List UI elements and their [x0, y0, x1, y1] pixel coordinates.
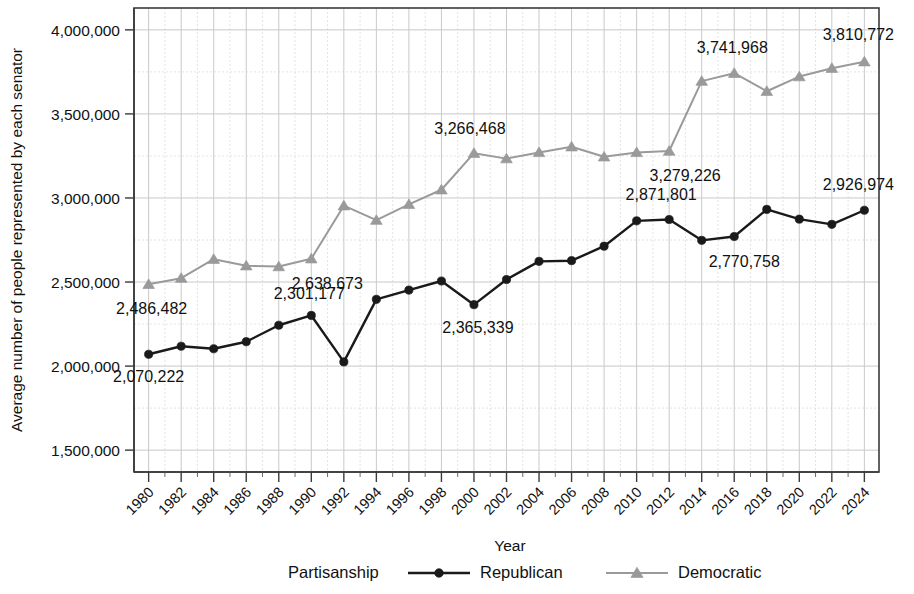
x-tick-label: 2012 — [643, 484, 677, 518]
x-tick-label: 1992 — [318, 484, 352, 518]
data-point-marker — [728, 68, 740, 78]
x-tick-label: 1996 — [383, 484, 417, 518]
data-point-marker — [566, 141, 578, 151]
x-tick-label: 1984 — [188, 484, 222, 518]
data-point-marker — [860, 206, 868, 214]
y-tick-label: 2,500,000 — [51, 274, 120, 291]
data-point-marker — [175, 273, 187, 283]
x-tick-label: 2010 — [611, 484, 645, 518]
y-axis-title: Average number of people represented by … — [8, 48, 25, 432]
data-point-marker — [633, 217, 641, 225]
data-point-marker — [372, 295, 380, 303]
y-axis-ticks: 1,500,0002,000,0002,500,0003,000,0003,50… — [51, 8, 134, 472]
data-point-marker — [730, 232, 738, 240]
data-point-marker — [859, 56, 871, 66]
y-tick-label: 3,500,000 — [51, 106, 120, 123]
x-tick-label: 2018 — [741, 484, 775, 518]
data-point-label: 2,070,222 — [113, 368, 184, 385]
x-tick-label: 2014 — [676, 484, 710, 518]
data-point-label: 3,279,226 — [650, 167, 721, 184]
data-point-label: 2,770,758 — [709, 253, 780, 270]
x-axis-title: Year — [494, 537, 525, 554]
data-point-label: 3,741,968 — [697, 39, 768, 56]
data-point-marker — [338, 200, 350, 210]
data-point-marker — [242, 338, 250, 346]
data-point-marker — [371, 215, 383, 225]
data-point-marker — [403, 199, 415, 209]
chart-figure: 1,500,0002,000,0002,500,0003,000,0003,50… — [0, 0, 914, 594]
data-point-marker — [340, 358, 348, 366]
data-point-marker — [761, 86, 773, 96]
x-tick-label: 1988 — [253, 484, 287, 518]
x-tick-label: 1990 — [285, 484, 319, 518]
x-tick-label: 2016 — [708, 484, 742, 518]
data-point-marker — [828, 220, 836, 228]
legend-label: Republican — [480, 563, 563, 581]
data-point-marker — [698, 236, 706, 244]
x-tick-label: 2002 — [480, 484, 514, 518]
x-tick-label: 1982 — [155, 484, 189, 518]
data-point-label: 3,810,772 — [823, 26, 894, 43]
legend: PartisanshipRepublicanDemocratic — [288, 563, 761, 581]
data-point-marker — [275, 321, 283, 329]
x-tick-label: 2024 — [838, 484, 872, 518]
data-point-marker — [306, 253, 318, 263]
y-tick-label: 1,500,000 — [51, 442, 120, 459]
x-tick-label: 2022 — [806, 484, 840, 518]
y-tick-label: 3,000,000 — [51, 190, 120, 207]
data-point-marker — [665, 215, 673, 223]
x-tick-label: 2004 — [513, 484, 547, 518]
major-gridlines — [134, 8, 879, 472]
y-tick-label: 4,000,000 — [51, 22, 120, 39]
legend-title: Partisanship — [288, 563, 379, 581]
data-point-label: 2,926,974 — [823, 176, 894, 193]
data-point-marker — [470, 301, 478, 309]
data-point-label: 2,638,673 — [292, 275, 363, 292]
x-tick-label: 2006 — [546, 484, 580, 518]
data-point-marker — [405, 286, 413, 294]
data-point-marker — [600, 242, 608, 250]
x-tick-label: 2020 — [773, 484, 807, 518]
x-axis-ticks: 1980198219841986198819901992199419961998… — [123, 472, 879, 518]
x-tick-label: 1986 — [220, 484, 254, 518]
x-tick-label: 2000 — [448, 484, 482, 518]
y-tick-label: 2,000,000 — [51, 358, 120, 375]
data-point-marker — [567, 257, 575, 265]
data-point-marker — [795, 215, 803, 223]
data-point-marker — [763, 205, 771, 213]
legend-label: Democratic — [678, 563, 761, 581]
data-point-marker — [177, 342, 185, 350]
data-point-marker — [307, 311, 315, 319]
data-point-marker — [435, 569, 444, 578]
data-point-marker — [468, 148, 480, 158]
x-tick-label: 1998 — [415, 484, 449, 518]
data-point-label: 2,365,339 — [442, 319, 513, 336]
x-tick-label: 2008 — [578, 484, 612, 518]
data-point-marker — [535, 257, 543, 265]
line-chart: 1,500,0002,000,0002,500,0003,000,0003,50… — [0, 0, 914, 594]
data-point-marker — [208, 254, 220, 264]
data-point-marker — [437, 277, 445, 285]
x-tick-label: 1994 — [350, 484, 384, 518]
data-point-marker — [145, 350, 153, 358]
x-tick-label: 1980 — [123, 484, 157, 518]
data-point-marker — [210, 345, 218, 353]
data-point-label: 3,266,468 — [434, 120, 505, 137]
data-point-label: 2,871,801 — [626, 186, 697, 203]
data-point-marker — [502, 275, 510, 283]
data-point-label: 2,486,482 — [116, 300, 187, 317]
